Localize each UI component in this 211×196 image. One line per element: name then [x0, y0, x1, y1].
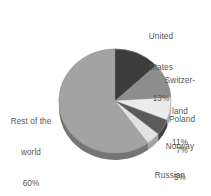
- pie-label-rest-of-the-world-line2: world: [2, 148, 60, 158]
- pie-label-russian-federation: Russian Federation 4%: [134, 150, 206, 196]
- pie-label-rest-of-the-world-value: 60%: [2, 179, 60, 189]
- pie-label-switzerland-line1: Switzer-: [152, 76, 208, 86]
- pie-label-united-states-line1: United: [131, 32, 191, 42]
- pie-label-rest-of-the-world-line1: Rest of the: [2, 117, 60, 127]
- pie-label-rest-of-the-world: Rest of the world 60%: [2, 96, 60, 196]
- pie-label-russian-federation-line1: Russian: [134, 171, 206, 181]
- pie-chart-figure: United States 13% Switzer- land 11% Pola…: [0, 0, 211, 196]
